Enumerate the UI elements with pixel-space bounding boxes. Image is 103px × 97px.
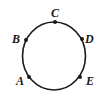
label-b: B bbox=[11, 32, 20, 46]
point-e bbox=[78, 75, 82, 79]
label-c: C bbox=[51, 6, 60, 20]
circle bbox=[23, 22, 86, 90]
circle-diagram: C D E A B bbox=[0, 0, 103, 97]
point-d bbox=[80, 37, 84, 41]
label-e: E bbox=[85, 74, 94, 88]
diagram-canvas: C D E A B bbox=[0, 0, 103, 97]
label-d: D bbox=[84, 32, 94, 46]
point-b bbox=[24, 38, 28, 42]
point-a bbox=[27, 75, 31, 79]
label-a: A bbox=[15, 74, 24, 88]
point-c bbox=[53, 20, 57, 24]
